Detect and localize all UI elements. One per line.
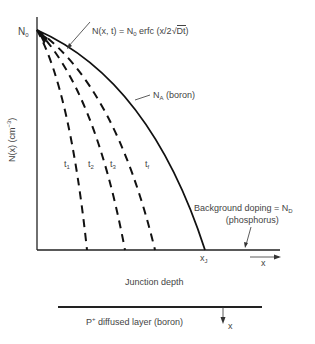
boron-curve-label: NA (boron): [153, 91, 195, 101]
background-pointer: [246, 227, 251, 245]
junction-depth-label: Junction depth: [125, 278, 184, 287]
final-profile-curve: [37, 30, 205, 250]
background-pointer-head: [244, 242, 248, 248]
diffused-layer-label: P+ diffused layer (boron): [86, 316, 183, 327]
na-pointer: [135, 95, 150, 100]
profile-curve-t3: [37, 30, 155, 250]
formula-pointer: [68, 22, 90, 47]
junction-depth-xj-label: xJ: [200, 254, 208, 264]
time-label-t3: t3: [110, 160, 116, 170]
x-direction-arrowhead: [274, 255, 281, 260]
depth-arrowhead: [221, 317, 226, 324]
formula-label: N(x, t) = N0 erfc (x/2√Dt): [92, 27, 189, 37]
depth-arrow-label: x: [228, 322, 233, 331]
time-label-t2: t2: [88, 160, 94, 170]
profile-curve-t1: [37, 30, 87, 250]
background-doping-label: Background doping = ND (phosphorus): [194, 204, 293, 225]
time-label-tf: tf: [145, 160, 149, 170]
sqrt-icon: √: [172, 26, 177, 36]
origin-label: N0: [18, 27, 29, 38]
x-arrow-label: x: [261, 259, 266, 268]
time-label-t1: t1: [64, 160, 70, 170]
profile-curve-t2: [37, 30, 125, 250]
y-axis-label: N(x) (cm−3): [6, 118, 17, 162]
diffusion-profile-diagram: [0, 0, 315, 344]
